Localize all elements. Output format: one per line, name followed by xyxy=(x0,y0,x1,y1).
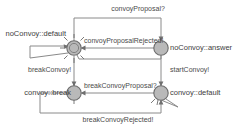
edge-labels-layer: convoyProposal? convoyProposalRejected! … xyxy=(28,5,209,124)
edge-no-convoy-default-self-loop[interactable] xyxy=(30,44,69,58)
edge-start-convoy[interactable] xyxy=(159,56,164,87)
node-label-no-convoy-answer: noConvoy::answer xyxy=(170,43,233,52)
edge-break-convoy-proposal[interactable] xyxy=(81,91,155,96)
edge-label-break-convoy-proposal: breakConvoyProposal? xyxy=(84,82,157,90)
node-label-convoy-break: convoy::break xyxy=(24,88,71,97)
edge-label-convoy-proposal-rejected: convoyProposalRejected! xyxy=(84,37,163,45)
edge-convoy-proposal-rejected[interactable] xyxy=(81,46,155,51)
state-machine-diagram: convoyProposal? convoyProposalRejected! … xyxy=(0,0,242,130)
edge-label-start-convoy: startConvoy! xyxy=(170,66,209,74)
edge-label-convoy-proposal: convoyProposal? xyxy=(111,5,165,13)
diagram-canvas: convoyProposal? convoyProposalRejected! … xyxy=(0,0,242,130)
node-label-convoy-default: convoy::default xyxy=(170,88,221,97)
nodes-layer xyxy=(60,34,168,105)
edge-label-break-convoy-rejected: breakConvoyRejected! xyxy=(83,116,154,124)
edge-label-break-convoy: breakConvoy! xyxy=(28,66,71,74)
node-label-no-convoy-default: noConvoy::default xyxy=(6,29,67,38)
edge-convoy-answer-return[interactable] xyxy=(77,55,161,59)
